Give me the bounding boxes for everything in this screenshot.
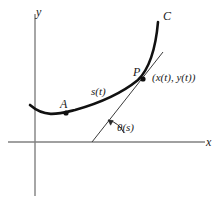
arc-length-label: s(t) bbox=[91, 86, 106, 97]
point-p-marker bbox=[140, 76, 145, 81]
point-a-marker bbox=[63, 110, 68, 115]
math-diagram: y x C A P s(t) θ(s) (x(t), y(t)) bbox=[0, 0, 222, 213]
angle-arrowhead bbox=[108, 120, 113, 125]
point-p-label: P bbox=[133, 66, 140, 78]
curve-label: C bbox=[163, 10, 171, 22]
point-a-label: A bbox=[60, 98, 67, 110]
x-axis-label: x bbox=[206, 136, 211, 148]
diagram-canvas bbox=[0, 0, 222, 213]
coordinates-label: (x(t), y(t)) bbox=[152, 72, 195, 83]
angle-label: θ(s) bbox=[117, 122, 134, 133]
y-axis-label: y bbox=[36, 6, 41, 18]
